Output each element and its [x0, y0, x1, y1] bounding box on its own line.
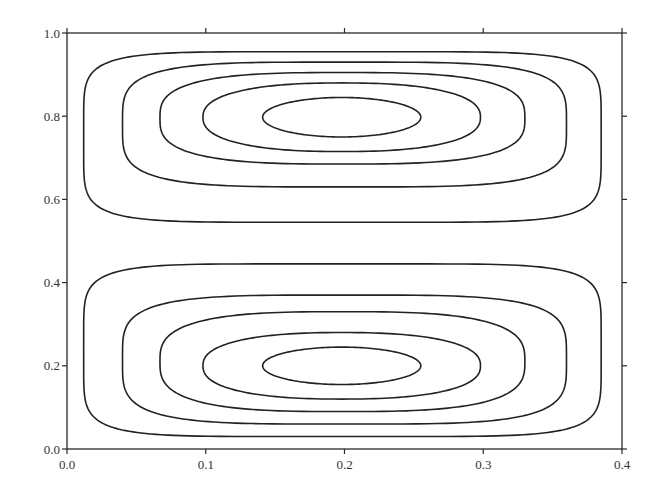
y-tick-label: 0.6 [44, 192, 61, 207]
contour-level-3 [160, 312, 525, 412]
contour-level-2 [123, 295, 567, 424]
y-tick-label: 1.0 [44, 26, 60, 41]
contour-plot: 0.00.10.20.30.4 0.00.20.40.60.81.0 [0, 0, 668, 496]
contour-level-5 [263, 347, 421, 384]
plot-frame [67, 33, 622, 449]
x-tick-label: 0.0 [59, 457, 75, 472]
y-axis: 0.00.20.40.60.81.0 [44, 26, 627, 457]
contour-level-4 [203, 83, 480, 152]
y-tick-label: 0.8 [44, 109, 60, 124]
y-tick-label: 0.2 [44, 358, 60, 373]
contour-level-4 [203, 333, 480, 400]
contour-lines [84, 52, 602, 437]
x-axis: 0.00.10.20.30.4 [59, 28, 631, 472]
x-tick-label: 0.4 [614, 457, 631, 472]
lower-cell [84, 264, 602, 437]
x-tick-label: 0.2 [336, 457, 352, 472]
y-tick-label: 0.4 [44, 275, 61, 290]
contour-level-2 [123, 62, 567, 187]
y-tick-label: 0.0 [44, 442, 60, 457]
x-tick-label: 0.1 [198, 457, 214, 472]
axes-box [67, 33, 622, 449]
upper-cell [84, 52, 602, 223]
x-tick-label: 0.3 [475, 457, 491, 472]
contour-level-3 [160, 73, 525, 165]
contour-level-5 [263, 97, 421, 137]
